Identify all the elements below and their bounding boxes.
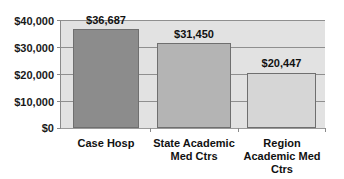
y-tick-label: $10,000 <box>14 96 54 108</box>
bar-value-label: $31,450 <box>157 28 231 40</box>
y-tick-label: $20,000 <box>14 69 54 81</box>
x-label-line: State Academic <box>150 137 238 150</box>
x-label-line: Case Hosp <box>66 137 146 150</box>
bar-state-academic-med-ctrs <box>157 43 231 128</box>
x-label-case-hosp: Case Hosp <box>66 137 146 150</box>
bar-value-label: $36,687 <box>73 14 139 26</box>
y-tick-label: $0 <box>42 122 54 134</box>
y-tick-label: $40,000 <box>14 15 54 27</box>
x-label-line: Academic Med <box>238 150 326 163</box>
y-tick <box>57 47 61 48</box>
bar-value-label: $20,447 <box>247 57 316 69</box>
x-tick <box>238 128 239 132</box>
x-tick <box>150 128 151 132</box>
y-tick <box>57 20 61 21</box>
y-tick-label: $30,000 <box>14 42 54 54</box>
x-label-line: Ctrs <box>238 163 326 176</box>
x-label-line: Med Ctrs <box>150 150 238 163</box>
y-tick <box>57 101 61 102</box>
y-tick <box>57 128 61 129</box>
y-tick <box>57 74 61 75</box>
bar-case-hosp <box>73 29 139 128</box>
x-tick <box>325 128 326 132</box>
x-label-state-academic-med-ctrs: State Academic Med Ctrs <box>150 137 238 163</box>
x-label-region-academic-med-ctrs: Region Academic Med Ctrs <box>238 137 326 176</box>
bar-chart: $40,000 $30,000 $20,000 $10,000 $0 $36,6… <box>0 0 344 179</box>
x-label-line: Region <box>238 137 326 150</box>
bar-region-academic-med-ctrs <box>247 73 316 128</box>
